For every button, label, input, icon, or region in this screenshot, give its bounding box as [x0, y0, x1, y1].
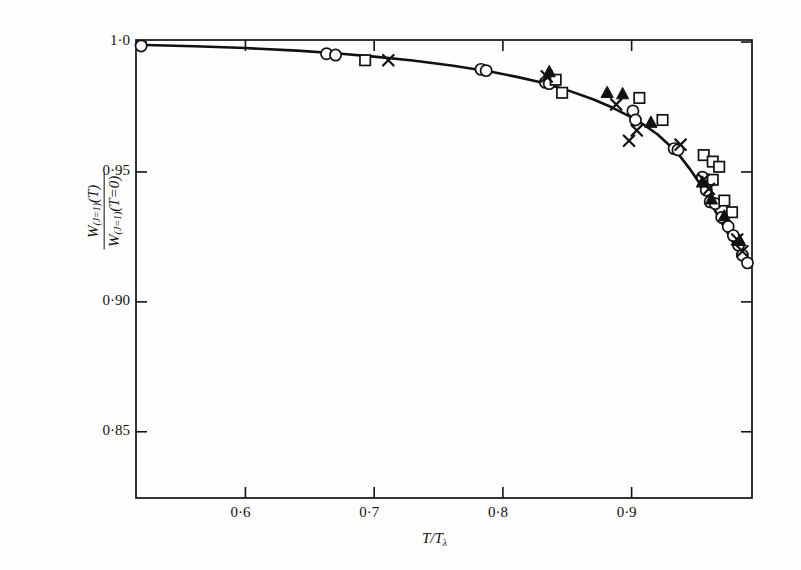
x-axis-label: T/Tλ [422, 530, 447, 548]
y-tick-label-3: 0·85 [78, 422, 130, 439]
x-tick-label-0: 0·6 [230, 504, 250, 521]
point-open-circle-20 [742, 257, 753, 268]
x-tick-label-3: 0·9 [617, 504, 637, 521]
point-open-square-9 [719, 195, 729, 205]
point-filled-triangle-3 [645, 116, 657, 127]
point-filled-triangle-1 [601, 86, 613, 97]
point-open-circle-2 [330, 49, 341, 60]
point-cross-4 [624, 135, 635, 146]
x-label-subscript: λ [443, 537, 447, 548]
x-tick-label-2: 0·8 [488, 504, 508, 521]
point-open-circle-4 [481, 65, 492, 76]
point-open-circle-8 [630, 114, 641, 125]
series-cross [383, 55, 748, 257]
plot-frame [136, 40, 752, 498]
curve-path [136, 45, 749, 268]
point-cross-0 [383, 55, 394, 66]
axis-ticks [136, 40, 752, 498]
point-filled-triangle-2 [617, 87, 629, 98]
point-cross-3 [631, 125, 642, 136]
y-tick-label-0: 1·0 [78, 32, 130, 49]
point-open-square-2 [557, 88, 567, 98]
y-tick-label-2: 0·90 [78, 292, 130, 309]
point-open-square-3 [634, 93, 644, 103]
data-points [136, 40, 754, 268]
plot-border [136, 40, 752, 498]
point-open-circle-0 [136, 40, 147, 51]
series-open-circle [136, 40, 754, 268]
point-open-square-4 [657, 115, 667, 125]
x-tick-label-1: 0·7 [359, 504, 379, 521]
theory-curve [136, 45, 749, 268]
point-open-square-10 [727, 207, 737, 217]
chart-canvas [0, 0, 801, 570]
point-open-square-0 [360, 55, 370, 65]
point-open-square-8 [708, 175, 718, 185]
y-tick-label-1: 0·95 [78, 162, 130, 179]
point-open-square-7 [714, 162, 724, 172]
figure-root: W(J=1)(T) W(J=1)(T=0) T/Tλ 0·60·70·80·91… [0, 0, 801, 570]
